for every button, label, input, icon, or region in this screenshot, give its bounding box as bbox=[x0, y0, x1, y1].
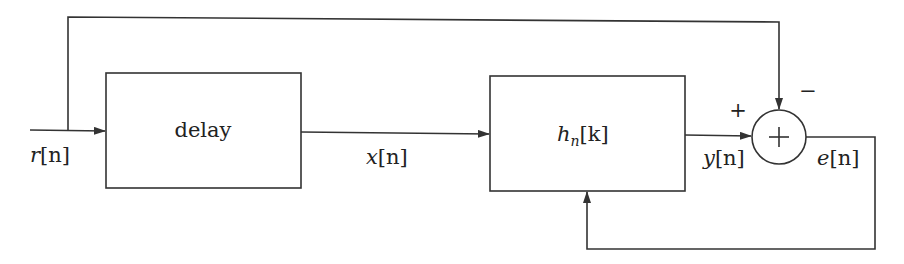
delayed-signal-label: x[n] bbox=[366, 145, 408, 169]
input-signal-line bbox=[30, 130, 105, 131]
plus-sign-label: + bbox=[729, 98, 747, 122]
filter-block: hn[k] bbox=[490, 76, 685, 191]
delayed-signal-line bbox=[301, 132, 489, 134]
delay-block: delay bbox=[106, 73, 301, 188]
adaptive-filter-diagram: delay hn[k] + − r[n] x[n] y[n] e[n] bbox=[0, 0, 904, 264]
filter-output-line bbox=[685, 135, 751, 136]
minus-sign-label: − bbox=[799, 79, 817, 103]
filter-output-label: y[n] bbox=[702, 146, 745, 170]
delay-label: delay bbox=[175, 118, 232, 142]
input-signal-label: r[n] bbox=[30, 143, 70, 167]
filter-label: hn[k] bbox=[557, 122, 609, 149]
error-signal-label: e[n] bbox=[817, 146, 859, 170]
summing-junction bbox=[752, 110, 806, 164]
